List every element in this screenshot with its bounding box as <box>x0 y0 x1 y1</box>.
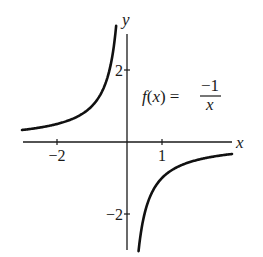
function-numerator: −1 <box>201 76 219 95</box>
y-axis-label: y <box>120 10 130 29</box>
x-tick-label: −2 <box>48 147 65 164</box>
curve-right-branch <box>139 154 232 251</box>
x-ticks: −21 <box>48 139 166 164</box>
x-tick-label: 1 <box>158 147 166 164</box>
function-denominator: x <box>205 95 214 114</box>
y-tick-label: 2 <box>115 62 123 79</box>
function-lhs: f(x) = <box>142 87 179 106</box>
y-tick-label: −2 <box>106 206 123 223</box>
function-label: f(x) = −1 x <box>142 76 221 114</box>
curve-left-branch <box>22 26 116 130</box>
x-axis-label: x <box>235 133 244 152</box>
function-graph: −21 2−2 x y f(x) = −1 x <box>0 0 263 257</box>
